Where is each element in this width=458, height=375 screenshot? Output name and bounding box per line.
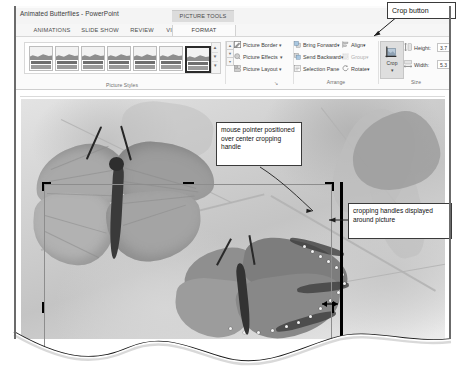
group-caret-icon: ▾ bbox=[366, 54, 369, 60]
group-label: Group bbox=[351, 54, 366, 60]
bring-forward-caret-icon[interactable]: ▾ bbox=[337, 42, 340, 48]
callout-cropping-handles: cropping handles displayed around pictur… bbox=[348, 203, 452, 239]
crop-button-label: Crop bbox=[381, 60, 403, 66]
arrange-group: Bring Forward▾ Send Backward▾ Selection … bbox=[294, 40, 378, 86]
tab-format[interactable]: FORMAT bbox=[172, 25, 236, 36]
shape-width-label: Width: bbox=[414, 62, 429, 68]
crop-dropdown-caret-icon[interactable]: ▾ bbox=[381, 68, 403, 73]
shape-height-icon bbox=[404, 43, 412, 51]
picture-style-thumb[interactable] bbox=[29, 46, 53, 71]
rotate-label: Rotate bbox=[351, 66, 367, 72]
picture-style-thumb[interactable] bbox=[133, 46, 157, 71]
picture-effects-label: Picture Effects bbox=[243, 54, 278, 60]
picture-effects-caret-icon[interactable]: ▾ bbox=[280, 55, 283, 60]
shape-height-label: Height: bbox=[414, 45, 431, 51]
crop-icon bbox=[385, 45, 399, 58]
picture-style-thumb[interactable] bbox=[107, 46, 131, 71]
picture-style-thumb[interactable] bbox=[55, 46, 79, 71]
group-label-size: Size bbox=[380, 79, 451, 85]
gallery-more-icon[interactable]: ▾ bbox=[212, 61, 218, 70]
tab-animations[interactable]: ANIMATIONS bbox=[30, 25, 74, 36]
picture-layout-icon bbox=[234, 65, 241, 72]
group-label-arrange: Arrange bbox=[294, 79, 378, 85]
callout-mouse-pointer: mouse pointer positioned over center cro… bbox=[216, 122, 302, 166]
align-icon bbox=[342, 41, 349, 48]
group-icon bbox=[342, 53, 349, 60]
picture-style-thumb-selected[interactable] bbox=[185, 46, 211, 73]
crop-button[interactable]: Crop ▾ bbox=[380, 41, 404, 79]
rotate-icon bbox=[342, 65, 349, 72]
align-button[interactable]: Align▾ bbox=[342, 40, 366, 51]
picture-effects-icon bbox=[234, 53, 241, 60]
window-title: Animated Butterflies - PowerPoint bbox=[20, 10, 119, 17]
title-bar: Animated Butterflies - PowerPoint PICTUR… bbox=[14, 8, 451, 24]
picture-border-caret-icon[interactable]: ▾ bbox=[279, 43, 282, 48]
bring-forward-label: Bring Forward bbox=[303, 42, 337, 48]
crop-handle-top-left[interactable] bbox=[42, 182, 44, 191]
picture-commands-column: ▲ ▼ ▾ Picture Border▾ Picture Effects▾ bbox=[226, 40, 292, 86]
selection-pane-label: Selection Pane bbox=[303, 66, 339, 72]
picture-layout-button[interactable]: Picture Layout▾ bbox=[234, 64, 282, 75]
group-button: Group▾ bbox=[342, 52, 369, 63]
picture-styles-gallery[interactable] bbox=[24, 42, 212, 74]
tab-slide-show[interactable]: SLIDE SHOW bbox=[78, 25, 122, 36]
crop-handle-top-right[interactable] bbox=[332, 182, 334, 191]
picture-style-thumb[interactable] bbox=[159, 46, 183, 71]
powerpoint-window: Animated Butterflies - PowerPoint PICTUR… bbox=[14, 6, 451, 346]
picture-effects-button[interactable]: Picture Effects▾ bbox=[234, 52, 283, 63]
window-border-right bbox=[449, 6, 451, 339]
selection-pane-icon bbox=[294, 65, 301, 72]
rotate-button[interactable]: Rotate▾ bbox=[342, 64, 370, 75]
ribbon: ▲ ▼ ▾ Picture Styles ▲ ▼ ▾ Picture Borde… bbox=[14, 37, 451, 89]
tab-review[interactable]: REVIEW bbox=[126, 25, 158, 36]
picture-layout-label: Picture Layout bbox=[243, 66, 277, 72]
picture-border-button[interactable]: Picture Border▾ bbox=[234, 40, 282, 51]
picture-styles-group: ▲ ▼ ▾ Picture Styles bbox=[18, 39, 226, 89]
rotate-caret-icon[interactable]: ▾ bbox=[367, 66, 370, 72]
send-backward-label: Send Backward bbox=[303, 54, 341, 60]
shape-width-row: Width: bbox=[404, 59, 429, 71]
picture-layout-caret-icon[interactable]: ▾ bbox=[279, 67, 282, 72]
group-label-picture-styles: Picture Styles bbox=[18, 82, 226, 88]
size-group: Crop ▾ Height: 3.7 Width: 5.3 Size bbox=[380, 40, 451, 86]
window-border-left bbox=[14, 6, 16, 339]
crop-handle-left-center[interactable] bbox=[42, 302, 44, 313]
crop-handle-top-center[interactable] bbox=[183, 182, 194, 184]
shape-height-row: Height: bbox=[404, 42, 431, 54]
callout-crop-button: Crop button bbox=[387, 2, 456, 19]
selection-pane-button[interactable]: Selection Pane bbox=[294, 64, 339, 75]
picture-styles-dialog-launcher[interactable]: ↘ bbox=[274, 80, 278, 86]
torn-page-edge bbox=[0, 318, 458, 375]
align-label: Align bbox=[351, 42, 363, 48]
figure-root: Animated Butterflies - PowerPoint PICTUR… bbox=[0, 0, 458, 375]
group-divider bbox=[378, 41, 379, 84]
gallery-spin-more-icon[interactable]: ▾ bbox=[226, 57, 234, 66]
bring-forward-button[interactable]: Bring Forward▾ bbox=[294, 40, 340, 51]
picture-style-thumb[interactable] bbox=[81, 46, 105, 71]
crop-handle-right-center[interactable] bbox=[332, 302, 334, 313]
slide-top-rule bbox=[20, 96, 445, 97]
pencil-border-icon bbox=[234, 41, 241, 48]
gallery-scrollbar[interactable]: ▲ ▼ ▾ bbox=[211, 42, 221, 74]
shape-width-icon bbox=[404, 60, 412, 68]
picture-tools-contextual-label: PICTURE TOOLS bbox=[172, 10, 234, 22]
send-backward-icon bbox=[294, 53, 301, 60]
send-backward-button[interactable]: Send Backward▾ bbox=[294, 52, 344, 63]
bring-forward-icon bbox=[294, 41, 301, 48]
align-caret-icon[interactable]: ▾ bbox=[363, 42, 366, 48]
picture-border-label: Picture Border bbox=[243, 42, 277, 48]
